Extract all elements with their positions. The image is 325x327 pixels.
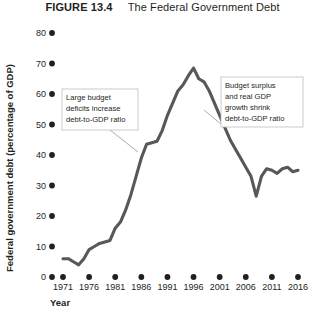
chart-area: 01020304050607080 1971197619811986199119… xyxy=(0,0,325,327)
x-tick-dot xyxy=(165,274,171,280)
y-tick-label: 0 xyxy=(41,272,46,282)
right-annotation-line-2: and real GDP xyxy=(225,92,271,101)
y-axis-ticks xyxy=(49,30,55,280)
x-tick-label: 1981 xyxy=(105,282,125,292)
y-tick-label: 50 xyxy=(36,120,46,130)
y-tick-dot xyxy=(49,61,55,67)
left-annotation-line-2: deficits increase xyxy=(66,104,120,113)
x-tick-dot xyxy=(112,274,118,280)
right-annotation: Budget surplus and real GDP growth shrin… xyxy=(204,77,303,127)
x-axis-title: Year xyxy=(50,297,70,308)
y-tick-dot xyxy=(49,152,55,158)
y-tick-label: 70 xyxy=(36,59,46,69)
y-tick-label: 40 xyxy=(36,150,46,160)
y-tick-dot xyxy=(49,183,55,189)
x-tick-dot xyxy=(295,274,301,280)
right-annotation-line-4: debt-to-GDP ratio xyxy=(225,114,284,123)
x-tick-label: 1976 xyxy=(79,282,99,292)
y-tick-dot xyxy=(49,213,55,219)
y-tick-dot xyxy=(49,91,55,97)
x-tick-label: 1971 xyxy=(53,282,73,292)
line-chart: 01020304050607080 1971197619811986199119… xyxy=(0,0,325,327)
x-tick-label: 1991 xyxy=(157,282,177,292)
y-tick-dot xyxy=(49,274,55,280)
left-annotation-line-1: Large budget xyxy=(66,93,112,102)
left-annotation-leader xyxy=(110,130,138,152)
y-tick-label: 60 xyxy=(36,89,46,99)
y-axis-tick-labels: 01020304050607080 xyxy=(36,28,46,282)
x-tick-label: 2001 xyxy=(210,282,230,292)
y-tick-dot xyxy=(49,30,55,36)
x-tick-dot xyxy=(243,274,249,280)
y-tick-label: 80 xyxy=(36,28,46,38)
x-axis-tick-labels: 1971197619811986199119962001200620112016 xyxy=(53,282,308,292)
y-tick-dot xyxy=(49,122,55,128)
x-tick-dot xyxy=(191,274,197,280)
y-tick-label: 10 xyxy=(36,242,46,252)
x-tick-label: 2006 xyxy=(236,282,256,292)
x-tick-label: 2011 xyxy=(262,282,281,292)
x-tick-dot xyxy=(60,274,66,280)
x-tick-dot xyxy=(86,274,92,280)
x-tick-dot xyxy=(138,274,144,280)
y-tick-label: 30 xyxy=(36,181,46,191)
x-tick-dot xyxy=(269,274,275,280)
right-annotation-line-1: Budget surplus xyxy=(225,81,276,90)
x-tick-label: 1996 xyxy=(184,282,204,292)
y-axis-title: Federal government debt (percentage of G… xyxy=(4,64,15,272)
right-annotation-line-3: growth shrink xyxy=(225,103,270,112)
x-tick-label: 1986 xyxy=(131,282,151,292)
left-annotation: Large budget deficits increase debt-to-G… xyxy=(62,89,138,152)
x-axis-ticks xyxy=(60,274,301,280)
y-tick-dot xyxy=(49,244,55,250)
x-tick-dot xyxy=(217,274,223,280)
x-tick-label: 2016 xyxy=(288,282,308,292)
left-annotation-line-3: debt-to-GDP ratio xyxy=(66,115,125,124)
y-tick-label: 20 xyxy=(36,211,46,221)
